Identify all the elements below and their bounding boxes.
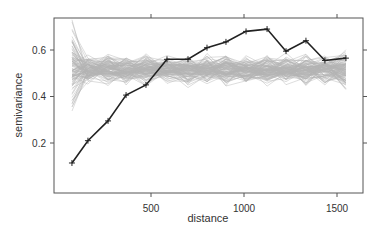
x-tick-label: 1500 bbox=[326, 203, 349, 214]
x-axis: 50010001500 bbox=[143, 14, 349, 214]
simulated-envelope-lines bbox=[72, 20, 346, 111]
y-axis-title: semivariance bbox=[12, 73, 24, 138]
y-tick-label: 0.2 bbox=[32, 138, 46, 149]
plus-marker-icon bbox=[243, 28, 249, 34]
y-tick-label: 0.4 bbox=[32, 91, 46, 102]
variogram-chart: 50010001500 0.20.40.6 distance semivaria… bbox=[0, 0, 384, 238]
x-axis-title: distance bbox=[188, 212, 229, 224]
plus-marker-icon bbox=[223, 39, 229, 45]
x-tick-label: 500 bbox=[143, 203, 160, 214]
plot-frame bbox=[54, 18, 363, 193]
x-tick-label: 1000 bbox=[233, 203, 256, 214]
y-tick-label: 0.6 bbox=[32, 45, 46, 56]
empirical-variogram-line bbox=[72, 29, 346, 163]
